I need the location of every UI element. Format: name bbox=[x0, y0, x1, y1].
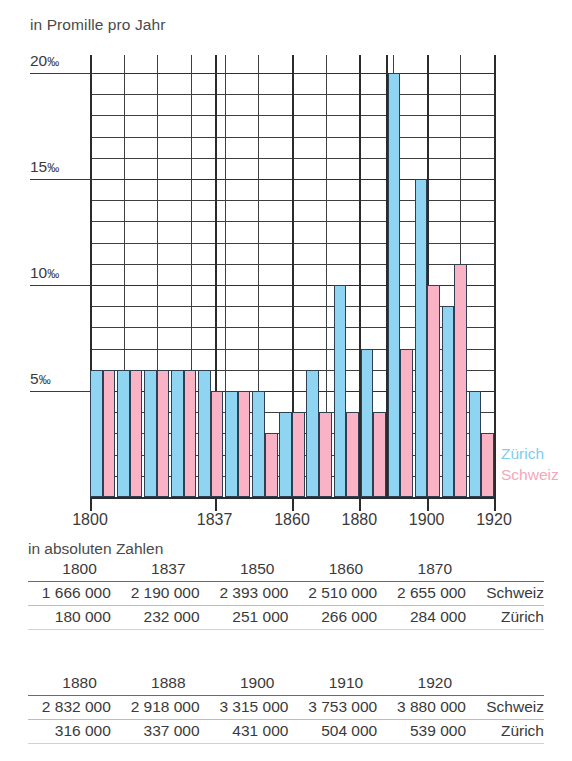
bar-schweiz bbox=[427, 285, 440, 497]
bar-zurich bbox=[388, 73, 401, 497]
legend-item-zurich: Zürich bbox=[501, 443, 559, 464]
x-axis-tick bbox=[494, 497, 496, 511]
bar-zurich bbox=[361, 349, 374, 497]
bar-zurich bbox=[90, 370, 103, 497]
x-axis-tick-label: 1920 bbox=[476, 511, 512, 529]
x-axis-tick-label: 1860 bbox=[274, 511, 310, 529]
bar-schweiz bbox=[157, 370, 170, 497]
table-year-header: 1800 bbox=[28, 558, 117, 582]
y-axis-rule bbox=[30, 73, 94, 74]
x-axis-tick bbox=[90, 497, 92, 511]
table-cell-value: 2 918 000 bbox=[117, 696, 206, 720]
x-axis-tick bbox=[359, 497, 361, 511]
tables-caption: in absoluten Zahlen bbox=[28, 540, 163, 558]
x-axis-tick bbox=[215, 497, 217, 511]
bar-schweiz bbox=[211, 391, 224, 497]
table-cell-value: 504 000 bbox=[294, 720, 383, 744]
table-cell-value: 1 666 000 bbox=[28, 582, 117, 606]
bar-schweiz bbox=[292, 412, 305, 497]
page-root: in Promille pro Jahr 20‰15‰10‰5‰ 1800183… bbox=[0, 0, 572, 761]
y-axis-rule bbox=[30, 285, 94, 286]
table-cell-value: 3 315 000 bbox=[206, 696, 295, 720]
bar-zurich bbox=[171, 370, 184, 497]
table-row: 180 000232 000251 000266 000284 000Züric… bbox=[28, 606, 544, 630]
table-row: 1 666 0002 190 0002 393 0002 510 0002 65… bbox=[28, 582, 544, 606]
table-cell-value: 232 000 bbox=[117, 606, 206, 630]
bar-zurich bbox=[279, 412, 292, 497]
bar-schweiz bbox=[346, 412, 359, 497]
table-cell-value: 2 655 000 bbox=[383, 582, 472, 606]
legend-item-schweiz: Schweiz bbox=[501, 464, 559, 485]
x-axis-tick bbox=[427, 497, 429, 511]
y-axis-tick-label: 20‰ bbox=[30, 52, 59, 70]
bar-zurich bbox=[469, 391, 482, 497]
table-row-label: Zürich bbox=[472, 606, 544, 630]
x-axis-tick bbox=[292, 497, 294, 511]
table-corner-cell bbox=[472, 672, 544, 696]
table-row-label: Schweiz bbox=[472, 582, 544, 606]
bar-schweiz bbox=[481, 433, 494, 497]
bar-zurich bbox=[198, 370, 211, 497]
absolute-numbers-table-1: 180018371850186018701 666 0002 190 0002 … bbox=[28, 558, 544, 630]
bar-zurich bbox=[334, 285, 347, 497]
table-cell-value: 284 000 bbox=[383, 606, 472, 630]
bar-zurich bbox=[415, 179, 428, 497]
table-year-header: 1920 bbox=[383, 672, 472, 696]
bar-schweiz bbox=[454, 264, 467, 497]
table-cell-value: 266 000 bbox=[294, 606, 383, 630]
table-cell-value: 2 393 000 bbox=[206, 582, 295, 606]
table-cell-value: 316 000 bbox=[28, 720, 117, 744]
table-corner-cell bbox=[472, 558, 544, 582]
table-row-label: Schweiz bbox=[472, 696, 544, 720]
table-year-header: 1910 bbox=[294, 672, 383, 696]
table-year-header: 1870 bbox=[383, 558, 472, 582]
chart-legend: Zürich Schweiz bbox=[501, 443, 559, 485]
y-axis-rule bbox=[30, 179, 94, 180]
bar-schweiz bbox=[184, 370, 197, 497]
table-1-body: 180018371850186018701 666 0002 190 0002 … bbox=[28, 558, 544, 630]
bar-zurich bbox=[306, 370, 319, 497]
table-year-header: 1900 bbox=[206, 672, 295, 696]
table-header-row: 18801888190019101920 bbox=[28, 672, 544, 696]
table-cell-value: 2 510 000 bbox=[294, 582, 383, 606]
table-cell-value: 337 000 bbox=[117, 720, 206, 744]
bar-zurich bbox=[442, 306, 455, 497]
bar-zurich bbox=[117, 370, 130, 497]
y-axis-tick-label: 15‰ bbox=[30, 158, 59, 176]
table-cell-value: 431 000 bbox=[206, 720, 295, 744]
table-year-header: 1837 bbox=[117, 558, 206, 582]
table-year-header: 1850 bbox=[206, 558, 295, 582]
bar-zurich bbox=[252, 391, 265, 497]
x-axis-tick-label: 1800 bbox=[72, 511, 108, 529]
bar-zurich bbox=[225, 391, 238, 497]
x-axis-tick-label: 1837 bbox=[197, 511, 233, 529]
population-growth-chart: 20‰15‰10‰5‰ 180018371860188019001920 Zür… bbox=[0, 0, 572, 530]
table-year-header: 1860 bbox=[294, 558, 383, 582]
absolute-numbers-table-2: 188018881900191019202 832 0002 918 0003 … bbox=[28, 672, 544, 744]
chart-bars-layer bbox=[90, 73, 494, 497]
table-cell-value: 3 753 000 bbox=[294, 696, 383, 720]
grid-line-vertical bbox=[494, 55, 496, 497]
table-row: 316 000337 000431 000504 000539 000Züric… bbox=[28, 720, 544, 744]
y-axis-rule bbox=[30, 391, 94, 392]
bar-schweiz bbox=[238, 391, 251, 497]
bar-schweiz bbox=[130, 370, 143, 497]
bar-zurich bbox=[144, 370, 157, 497]
bar-schweiz bbox=[373, 412, 386, 497]
table-cell-value: 2 832 000 bbox=[28, 696, 117, 720]
x-axis-tick-label: 1880 bbox=[342, 511, 378, 529]
bar-schweiz bbox=[265, 433, 278, 497]
table-cell-value: 251 000 bbox=[206, 606, 295, 630]
table-cell-value: 180 000 bbox=[28, 606, 117, 630]
table-year-header: 1888 bbox=[117, 672, 206, 696]
table-year-header: 1880 bbox=[28, 672, 117, 696]
bar-schweiz bbox=[400, 349, 413, 497]
table-row-label: Zürich bbox=[472, 720, 544, 744]
bar-schweiz bbox=[103, 370, 116, 497]
table-cell-value: 539 000 bbox=[383, 720, 472, 744]
table-cell-value: 2 190 000 bbox=[117, 582, 206, 606]
table-cell-value: 3 880 000 bbox=[383, 696, 472, 720]
table-header-row: 18001837185018601870 bbox=[28, 558, 544, 582]
y-axis-tick-label: 5‰ bbox=[30, 370, 51, 388]
y-axis-tick-label: 10‰ bbox=[30, 264, 59, 282]
